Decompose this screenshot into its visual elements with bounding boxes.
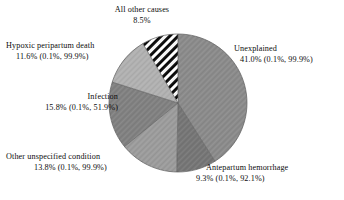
pie-label-infection: Infection 15.8% (0.1%, 51.9%) bbox=[8, 92, 118, 113]
pie-label-other-unspecified-condition: Other unspecified condition 13.8% (0.1%,… bbox=[6, 152, 107, 173]
pie-label-unexplained-value: 41.0% (0.1%, 99.9%) bbox=[234, 55, 313, 66]
pie-label-all-other-causes-name: All other causes bbox=[86, 5, 198, 16]
pie-label-hypoxic-peripartum-death-value: 11.6% (0.1%, 99.9%) bbox=[6, 52, 94, 63]
pie-label-hypoxic-peripartum-death: Hypoxic peripartum death 11.6% (0.1%, 99… bbox=[6, 41, 94, 62]
pie-label-infection-value: 15.8% (0.1%, 51.9%) bbox=[8, 103, 118, 114]
pie-label-unexplained-name: Unexplained bbox=[234, 44, 313, 55]
pie-label-other-unspecified-condition-name: Other unspecified condition bbox=[6, 152, 107, 163]
pie-label-unexplained: Unexplained 41.0% (0.1%, 99.9%) bbox=[234, 44, 313, 65]
pie-label-infection-name: Infection bbox=[8, 92, 118, 103]
pie-label-other-unspecified-condition-value: 13.8% (0.1%, 99.9%) bbox=[6, 163, 107, 174]
pie-label-hypoxic-peripartum-death-name: Hypoxic peripartum death bbox=[6, 41, 94, 52]
pie-label-antepartum-hemorrhage-value: 9.3% (0.1%, 92.1%) bbox=[196, 174, 288, 185]
pie-label-all-other-causes-value: 8.5% bbox=[86, 16, 198, 27]
pie-label-all-other-causes: All other causes 8.5% bbox=[86, 5, 198, 26]
pie-label-antepartum-hemorrhage-name: Antepartum hemorrhage bbox=[196, 163, 288, 174]
pie-chart-figure: All other causes 8.5% Unexplained 41.0% … bbox=[0, 0, 344, 200]
pie-label-antepartum-hemorrhage: Antepartum hemorrhage 9.3% (0.1%, 92.1%) bbox=[196, 163, 288, 184]
